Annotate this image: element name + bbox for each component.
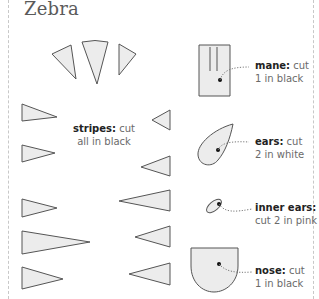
stripe-piece	[152, 110, 170, 130]
stripes-label: stripes: cut all in black	[66, 122, 142, 148]
nose-label-instruction: 1 in black	[255, 278, 303, 289]
stripe-piece	[22, 267, 63, 289]
stripes-label-name: stripes:	[73, 123, 116, 134]
ears-label-name: ears:	[255, 136, 283, 147]
wedge-right-piece	[119, 44, 136, 75]
wedge-left-piece	[52, 45, 76, 79]
mane-label-instruction: 1 in black	[255, 73, 303, 84]
inner-ears-label-instruction: cut 2 in pink	[255, 215, 317, 226]
stripe-piece	[22, 145, 55, 162]
stripe-piece	[22, 231, 90, 254]
stripe-piece	[22, 199, 57, 217]
inner-ears-label-name: inner ears:	[255, 202, 316, 213]
mane-label-name: mane:	[255, 60, 290, 71]
inner-ear-piece	[204, 197, 224, 215]
stripe-piece	[129, 263, 170, 285]
mane-label: mane: cut 1 in black	[255, 59, 309, 85]
nose-label: nose: cut 1 in black	[255, 264, 305, 290]
nose-piece	[191, 248, 238, 292]
stripe-piece	[22, 104, 57, 121]
mane-piece	[199, 45, 230, 96]
inner-ear-leader-line	[219, 204, 252, 211]
stripe-piece	[119, 190, 170, 211]
ears-label: ears: cut 2 in white	[255, 135, 304, 161]
wedge-center-piece	[82, 41, 108, 85]
ear-piece	[198, 124, 233, 165]
nose-label-name: nose:	[255, 265, 286, 276]
stripes-label-instruction: all in black	[77, 136, 131, 147]
ears-label-instruction: 2 in white	[255, 149, 304, 160]
stripe-piece	[135, 226, 170, 247]
inner-ears-label: inner ears: cut 2 in pink	[255, 201, 317, 227]
stripe-piece	[141, 156, 170, 176]
